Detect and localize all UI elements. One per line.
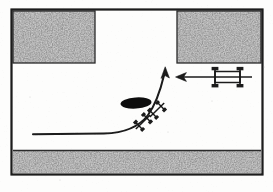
diagram-canvas [0, 0, 273, 192]
top-left-block [13, 11, 95, 63]
diagram-figure [0, 0, 273, 192]
top-right-block [177, 11, 261, 63]
bottom-block [13, 150, 261, 173]
